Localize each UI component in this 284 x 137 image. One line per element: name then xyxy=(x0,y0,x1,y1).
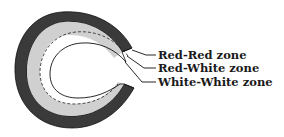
label-red-red-zone: Red-Red zone xyxy=(158,49,247,61)
label-white-white-zone: White-White zone xyxy=(158,76,273,88)
leader-line-red-white xyxy=(127,56,156,68)
leader-line-red-red xyxy=(132,50,156,55)
label-red-white-zone: Red-White zone xyxy=(158,62,259,74)
